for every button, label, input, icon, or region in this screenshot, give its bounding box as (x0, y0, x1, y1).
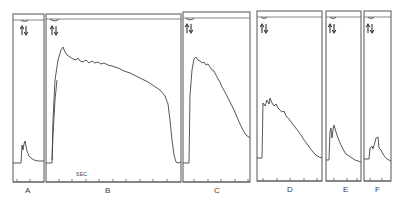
trace-f (364, 137, 391, 161)
panel-b: SEC. B (46, 14, 181, 195)
trace-e (326, 125, 361, 162)
panel-label-b: B (105, 186, 110, 195)
stimulus-arrows-icon (328, 24, 336, 33)
panel-c: C (183, 12, 250, 195)
panel-label-c: C (214, 186, 220, 195)
stimulus-arrows-icon (185, 24, 193, 33)
trace-d (257, 98, 322, 158)
panel-a: A (13, 14, 44, 195)
stimulus-mark (21, 21, 28, 22)
panel-label-e: E (343, 185, 348, 194)
panel-d: D (257, 11, 322, 194)
panel-e: E (326, 11, 361, 194)
kymograph-figure: A SEC. B C (0, 0, 402, 201)
panel-label-f: F (375, 185, 380, 194)
trace-b (46, 47, 181, 163)
trace-c (183, 57, 250, 163)
panel-label-a: A (25, 186, 31, 195)
stimulus-arrows-icon (260, 24, 268, 33)
panel-f: F (364, 11, 391, 194)
trace-a (13, 141, 44, 163)
stimulus-arrows-icon (50, 26, 58, 35)
stimulus-arrows-icon (366, 24, 374, 33)
stimulus-arrows-icon (20, 26, 28, 35)
time-axis-label: SEC. (76, 171, 89, 177)
panel-label-d: D (287, 185, 293, 194)
